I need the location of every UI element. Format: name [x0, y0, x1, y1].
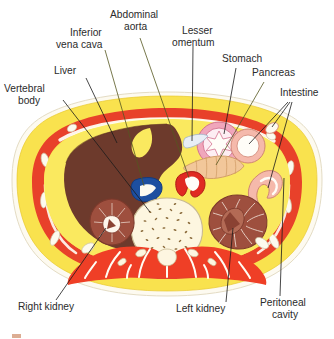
- spinous-process: [158, 249, 177, 266]
- label-left-kidney: Left kidney: [176, 303, 226, 314]
- anatomy-illustration: Vertebral body Liver Inferior vena cava …: [0, 0, 334, 339]
- label-liver-line-0: Liver: [54, 65, 77, 76]
- label-abdominal-aorta-line-0: Abdominal: [110, 9, 158, 20]
- label-peritoneal-cavity-line-1: cavity: [272, 309, 299, 320]
- label-abdominal-aorta: Abdominal aorta: [110, 9, 161, 32]
- label-vertebral-body: Vertebral body: [4, 83, 48, 106]
- label-lesser-omentum-line-1: omentum: [172, 37, 214, 48]
- label-lesser-omentum: Lesser omentum: [172, 25, 215, 48]
- intestine-loop-large-lumen: [237, 135, 259, 157]
- label-lesser-omentum-line-0: Lesser: [182, 25, 213, 36]
- label-right-kidney-line-0: Right kidney: [18, 301, 75, 312]
- label-inferior-vena-cava: Inferior vena cava: [56, 27, 105, 50]
- caption-figure-mark: [12, 334, 21, 338]
- label-stomach-line-0: Stomach: [222, 53, 262, 64]
- label-pancreas-line-0: Pancreas: [252, 67, 295, 78]
- label-abdominal-aorta-line-1: aorta: [124, 21, 148, 32]
- label-left-kidney-line-0: Left kidney: [176, 303, 226, 314]
- label-liver: Liver: [54, 65, 77, 76]
- caption-strip: [0, 331, 334, 339]
- label-vertebral-body-line-1: body: [18, 95, 41, 106]
- abdominal-cross-section-figure: Vertebral body Liver Inferior vena cava …: [0, 0, 334, 339]
- label-peritoneal-cavity-line-0: Peritoneal: [260, 297, 306, 308]
- label-peritoneal-cavity: Peritoneal cavity: [260, 297, 309, 320]
- label-inferior-vena-cava-line-1: vena cava: [56, 39, 103, 50]
- label-vertebral-body-line-0: Vertebral: [4, 83, 45, 94]
- label-pancreas: Pancreas: [252, 67, 295, 78]
- label-intestine: Intestine: [280, 87, 319, 98]
- label-stomach: Stomach: [222, 53, 262, 64]
- label-intestine-line-0: Intestine: [280, 87, 319, 98]
- label-right-kidney: Right kidney: [18, 301, 75, 312]
- label-inferior-vena-cava-line-0: Inferior: [70, 27, 102, 38]
